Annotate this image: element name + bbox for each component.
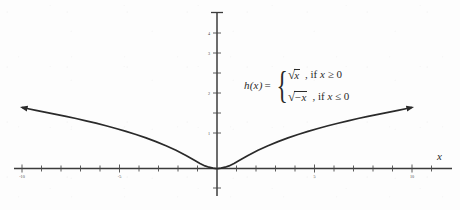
y-tick-label-3: 3 bbox=[208, 51, 210, 56]
radicand: −x bbox=[294, 91, 307, 103]
radical-sqrt-x: √ x bbox=[288, 68, 300, 81]
x-tick-label-5: 5 bbox=[313, 174, 315, 179]
y-tick-label-2: 2 bbox=[208, 91, 210, 96]
function-graph-figure bbox=[0, 0, 460, 210]
case-condition: , if x ≥ 0 bbox=[305, 69, 342, 80]
formula-case-row: √ x , if x ≥ 0 bbox=[288, 68, 349, 81]
formula-equals-sign: = bbox=[265, 79, 271, 91]
radical-sqrt-neg-x: √ −x bbox=[288, 90, 307, 103]
formula-case-row: √ −x , if x ≤ 0 bbox=[288, 90, 349, 103]
radicand: x bbox=[294, 69, 300, 81]
y-tick-label-1: 1 bbox=[208, 131, 210, 136]
case-condition: , if x ≤ 0 bbox=[312, 91, 349, 102]
x-tick-label-10: 10 bbox=[410, 174, 414, 179]
curve-right-branch bbox=[218, 108, 412, 169]
x-axis bbox=[14, 165, 452, 173]
formula-left-brace: { bbox=[276, 66, 287, 104]
y-tick-label-4: 4 bbox=[208, 31, 210, 36]
formula-function-name: h(x) bbox=[244, 79, 263, 91]
x-tick-label-neg5: -5 bbox=[118, 174, 122, 179]
x-tick-label-neg10: -10 bbox=[19, 174, 25, 179]
piecewise-formula-annotation: h(x) = { √ x , if x ≥ 0 √ −x , if x ≤ 0 bbox=[244, 66, 349, 104]
formula-cases: √ x , if x ≥ 0 √ −x , if x ≤ 0 bbox=[288, 68, 349, 103]
x-axis-label: x bbox=[437, 150, 442, 162]
curve-left-branch bbox=[23, 108, 217, 169]
